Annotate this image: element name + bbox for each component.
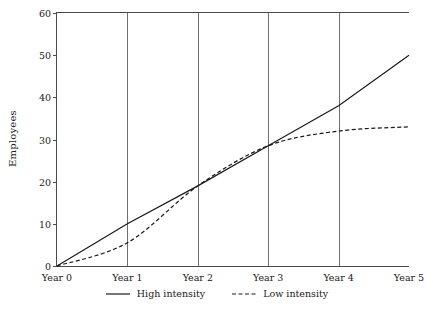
y-tick-mark-20: [53, 182, 57, 183]
x-tick-label-year-0: Year 0: [42, 272, 72, 283]
legend-item-high-intensity: High intensity: [105, 288, 205, 299]
gridlines-group: [128, 13, 340, 266]
y-axis-title: Employees: [2, 0, 22, 277]
plot-svg: [57, 13, 409, 266]
x-tick-label-year-1: Year 1: [112, 272, 142, 283]
legend-label-high-intensity: High intensity: [137, 288, 205, 299]
series-line-low-intensity: [57, 127, 409, 266]
y-tick-mark-30: [53, 140, 57, 141]
plot-area: 0102030405060 Year 0Year 1Year 2Year 3Ye…: [56, 12, 409, 267]
y-tick-label-30: 30: [39, 134, 51, 145]
y-tick-label-20: 20: [39, 176, 51, 187]
y-axis-title-label: Employees: [7, 110, 18, 167]
x-tick-label-year-5: Year 5: [394, 272, 424, 283]
legend-label-low-intensity: Low intensity: [263, 288, 328, 299]
y-tick-mark-10: [53, 224, 57, 225]
y-tick-mark-0: [53, 266, 57, 267]
chart-figure: Employees 0102030405060 Year 0Year 1Year…: [0, 0, 433, 313]
y-tick-label-40: 40: [39, 92, 51, 103]
x-tick-label-year-3: Year 3: [253, 272, 283, 283]
chart-legend: High intensity Low intensity: [0, 288, 433, 299]
legend-item-low-intensity: Low intensity: [231, 288, 328, 299]
y-tick-label-60: 60: [39, 8, 51, 19]
legend-swatch-dashed-icon: [231, 290, 257, 298]
y-tick-label-0: 0: [45, 261, 51, 272]
y-tick-label-50: 50: [39, 50, 51, 61]
y-tick-mark-50: [53, 55, 57, 56]
legend-swatch-solid-icon: [105, 290, 131, 298]
x-tick-label-year-2: Year 2: [183, 272, 213, 283]
x-tick-label-year-4: Year 4: [323, 272, 353, 283]
y-tick-label-10: 10: [39, 218, 51, 229]
y-tick-mark-40: [53, 97, 57, 98]
series-line-high-intensity: [57, 55, 409, 266]
y-tick-mark-60: [53, 13, 57, 14]
